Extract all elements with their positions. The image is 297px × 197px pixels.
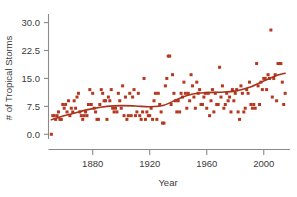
data-point (190, 73, 193, 76)
data-point (133, 88, 136, 91)
x-tick-label: 1960 (196, 158, 217, 169)
data-point (123, 114, 126, 117)
data-point (64, 103, 67, 106)
data-point (228, 96, 231, 99)
data-point (191, 84, 194, 87)
data-point (218, 66, 221, 69)
data-point (125, 118, 128, 121)
data-point (137, 92, 140, 95)
y-tick-label: 7.5 (27, 101, 40, 112)
data-point (172, 92, 175, 95)
data-point (265, 88, 268, 91)
data-point (77, 92, 80, 95)
data-point (100, 88, 103, 91)
data-point (143, 77, 146, 80)
data-point (210, 99, 213, 102)
data-point (157, 92, 160, 95)
data-point (254, 107, 257, 110)
data-point (83, 114, 86, 117)
data-point (124, 96, 127, 99)
data-point (217, 103, 220, 106)
data-point (249, 103, 252, 106)
data-point (141, 110, 144, 113)
data-point (81, 118, 84, 121)
data-point (284, 92, 287, 95)
data-point (205, 107, 208, 110)
y-tick-label: 22.5 (22, 45, 41, 56)
data-point (98, 103, 101, 106)
data-point (171, 73, 174, 76)
data-point (67, 99, 70, 102)
data-point (140, 118, 143, 121)
data-point (242, 110, 245, 113)
x-axis-title: Year (158, 177, 177, 188)
data-point (182, 81, 185, 84)
data-point (144, 118, 147, 121)
data-point (227, 99, 230, 102)
data-point (121, 84, 124, 87)
data-point (74, 107, 77, 110)
data-point (154, 92, 157, 95)
data-point (194, 107, 197, 110)
data-point (97, 118, 100, 121)
data-point (76, 96, 79, 99)
tropical-storms-scatter-plot: # of Tropical Storms Year 0.07.515.022.5… (0, 0, 297, 197)
y-axis-ticks: 0.07.515.022.530.0 (22, 17, 49, 140)
data-point (120, 107, 123, 110)
data-point (195, 81, 198, 84)
data-point (105, 118, 108, 121)
data-point (258, 103, 261, 106)
x-tick-label: 2000 (253, 158, 274, 169)
data-point (192, 96, 195, 99)
data-point (66, 110, 69, 113)
data-point (282, 103, 285, 106)
data-point (145, 110, 148, 113)
chart-figure: # of Tropical Storms Year 0.07.515.022.5… (0, 0, 297, 197)
data-point (57, 110, 60, 113)
data-point (113, 110, 116, 113)
data-point (128, 92, 131, 95)
data-point (115, 110, 118, 113)
data-point (188, 99, 191, 102)
data-point (238, 118, 241, 121)
data-point (239, 84, 242, 87)
data-point (107, 96, 110, 99)
data-point (247, 92, 250, 95)
data-point (252, 103, 255, 106)
data-point (110, 88, 113, 91)
data-point (221, 84, 224, 87)
y-tick-label: 30.0 (22, 17, 41, 28)
data-point (85, 114, 88, 117)
data-point (261, 88, 264, 91)
data-point (220, 96, 223, 99)
data-point (101, 92, 104, 95)
data-point (212, 110, 215, 113)
data-point (248, 81, 251, 84)
data-points-layer (50, 29, 287, 136)
data-point (91, 92, 94, 95)
data-point (114, 107, 117, 110)
data-point (130, 114, 133, 117)
data-point (232, 99, 235, 102)
data-point (152, 99, 155, 102)
data-point (151, 118, 154, 121)
data-point (222, 107, 225, 110)
data-point (234, 92, 237, 95)
data-point (138, 114, 141, 117)
data-point (178, 110, 181, 113)
data-point (267, 73, 270, 76)
data-point (131, 96, 134, 99)
data-point (237, 110, 240, 113)
data-point (208, 114, 211, 117)
x-tick-label: 1920 (139, 158, 160, 169)
data-point (94, 110, 97, 113)
data-point (281, 81, 284, 84)
data-point (148, 114, 151, 117)
data-point (61, 103, 64, 106)
data-point (275, 99, 278, 102)
data-point (118, 99, 121, 102)
data-point (184, 92, 187, 95)
data-point (279, 62, 282, 65)
data-point (229, 110, 232, 113)
data-point (269, 29, 272, 32)
